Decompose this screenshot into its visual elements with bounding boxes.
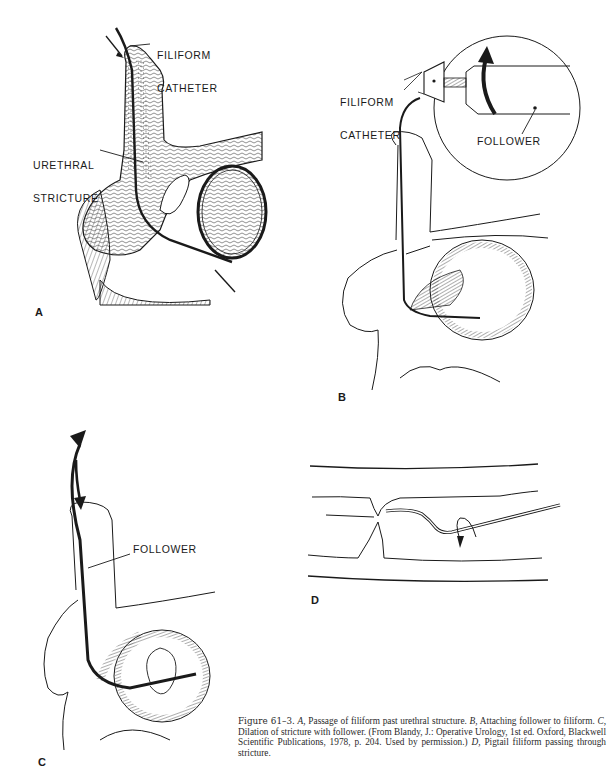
panel-letter-d: D — [311, 594, 319, 606]
magnifier-circle — [434, 36, 580, 180]
label-follower-b: FOLLOWER — [477, 136, 541, 147]
figure-number: Figure 61–3. — [238, 716, 295, 726]
label-filiform-catheter-b: FILIFORM CATHETER — [340, 75, 401, 163]
figure-caption: Figure 61–3. A, Passage of filiform past… — [238, 716, 606, 758]
caption-seg-5: C, — [597, 716, 606, 726]
caption-seg-4: Attaching follower to filiform. — [478, 716, 598, 726]
label-urethral-stricture: URETHRAL STRICTURE — [33, 138, 98, 226]
panel-letter-c: C — [38, 756, 46, 768]
caption-seg-2: Passage of filiform past urethral struct… — [306, 716, 470, 726]
panel-letter-b: B — [338, 391, 346, 403]
panel-b: FILIFORM CATHETER FOLLOWER B — [300, 0, 608, 410]
panel-d-illustration — [300, 450, 608, 610]
caption-seg-7: D, — [472, 737, 481, 747]
label-follower-c: FOLLOWER — [133, 544, 197, 555]
caption-seg-1: A, — [298, 716, 306, 726]
panel-letter-a: A — [35, 306, 43, 318]
caption-seg-3: B, — [470, 716, 478, 726]
panel-d: D — [300, 450, 608, 610]
panel-a: FILIFORM CATHETER URETHRAL STRICTURE A — [0, 0, 300, 320]
label-filiform-catheter-a: FILIFORM CATHETER — [157, 28, 218, 116]
panel-b-illustration — [300, 0, 608, 410]
